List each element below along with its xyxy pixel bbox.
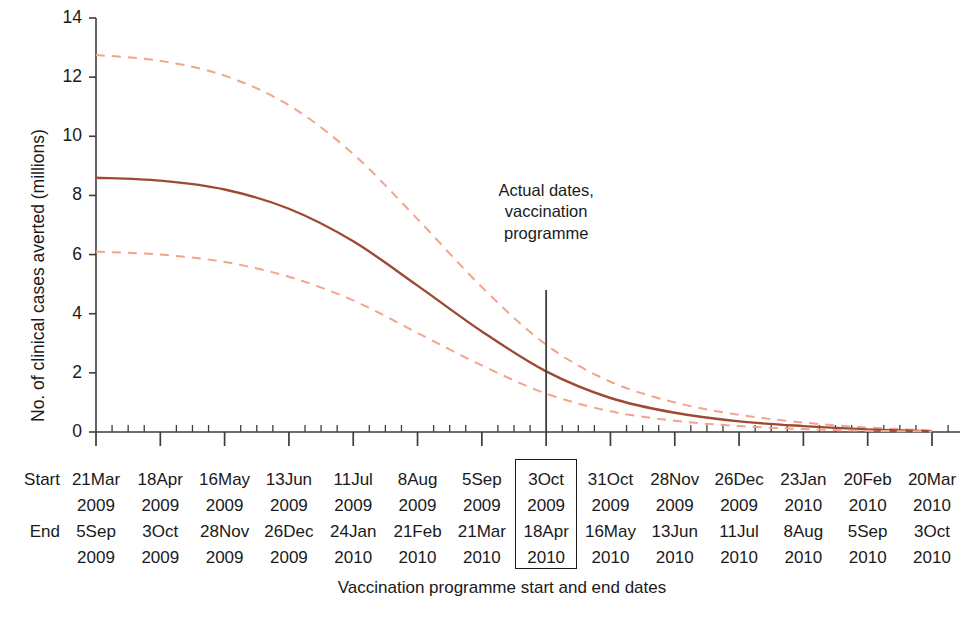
date-cell-end-day-13: 3Oct xyxy=(894,522,970,542)
series-line-2 xyxy=(96,252,932,432)
x-axis-title: Vaccination programme start and end date… xyxy=(0,578,974,598)
annotation-line-3: programme xyxy=(436,223,656,244)
annotation-line-1: Actual dates, xyxy=(436,180,656,201)
page-bottom-edge xyxy=(0,617,974,627)
figure-panel: No. of clinical cases averted (millions)… xyxy=(0,0,974,627)
end-row-label: End xyxy=(8,522,60,542)
actual-dates-annotation: Actual dates, vaccination programme xyxy=(436,180,656,244)
start-row-label: Start xyxy=(8,470,60,490)
date-cell-start-year-13: 2010 xyxy=(894,496,970,516)
highlighted-date-column-box xyxy=(515,459,577,569)
date-cell-end-year-13: 2010 xyxy=(894,548,970,568)
annotation-line-2: vaccination xyxy=(436,201,656,222)
date-cell-start-day-13: 20Mar xyxy=(894,470,970,490)
